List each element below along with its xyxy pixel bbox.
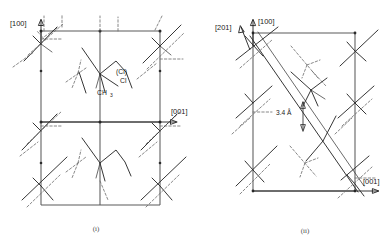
panel-i-unit-cell xyxy=(40,30,162,206)
panel-ii-axis-label-201: [201] xyxy=(215,23,231,32)
panel-i-label-methyl: CH xyxy=(97,89,107,96)
panel-ii-caption: (ii) xyxy=(301,227,310,235)
panel-ii-distance-marker xyxy=(301,102,306,132)
panel-ii-molecule-top-right xyxy=(340,30,378,66)
panel-ii-molecule-bottom-left xyxy=(236,146,277,194)
panel-i-top-edge-marks xyxy=(100,16,162,31)
panel-ii-molecule-lower-dashed xyxy=(290,116,336,177)
panel-ii-molecule-mid-left xyxy=(232,86,272,134)
figure-root: [100] [001] (Cl) Cl CH 3 (i) xyxy=(0,0,392,250)
panel-ii-stacking-distance-label: 3.4 Å xyxy=(276,108,292,116)
panel-i: [100] [001] (Cl) Cl CH 3 (i) xyxy=(10,14,187,233)
packing-diagram: [100] [001] (Cl) Cl CH 3 (i) xyxy=(0,0,392,250)
panel-i-molecule-lower-center xyxy=(66,138,131,200)
panel-i-label-methyl-subscript: 3 xyxy=(110,92,113,98)
panel-i-label-chlorine-minor: (Cl) xyxy=(116,68,127,76)
panel-i-label-chlorine: Cl xyxy=(120,77,127,84)
panel-i-molecule-bottom-left xyxy=(22,157,67,207)
panel-i-molecule-mid-edges xyxy=(20,111,182,157)
panel-ii: [100] [201] [001] 3.4 Å (ii) xyxy=(215,17,379,235)
panel-i-molecule-bottom-right xyxy=(141,157,186,207)
panel-i-axis-label-001: [001] xyxy=(171,107,187,116)
panel-i-axis-label-100: [100] xyxy=(10,19,26,28)
panel-i-axes xyxy=(38,19,177,124)
panel-i-molecule-mid-left xyxy=(66,60,86,93)
panel-ii-axis-label-001: [001] xyxy=(363,177,379,186)
panel-ii-molecule-upper-dashed xyxy=(291,46,326,86)
panel-i-caption: (i) xyxy=(93,225,100,233)
panel-ii-axis-label-100: [100] xyxy=(258,17,274,26)
panel-ii-molecule-center xyxy=(291,72,327,106)
